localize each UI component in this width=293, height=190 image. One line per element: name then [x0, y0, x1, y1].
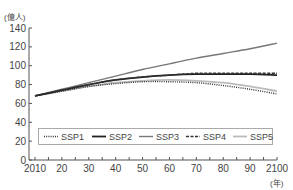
legend-label-ssp5: SSP5 [250, 132, 273, 142]
y-tick-label: 80 [15, 79, 27, 90]
x-tick-label: 2010 [24, 163, 47, 174]
series-lines [35, 43, 277, 96]
x-axis-unit-label: (年) [270, 178, 284, 188]
legend-label-ssp2: SSP2 [109, 132, 132, 142]
legend-label-ssp4: SSP4 [203, 132, 226, 142]
legend-label-ssp3: SSP3 [156, 132, 179, 142]
x-tick-label: 30 [83, 163, 95, 174]
x-tick-label: 90 [245, 163, 257, 174]
y-tick-label: 140 [9, 23, 26, 34]
x-tick-label: 2100 [266, 163, 289, 174]
y-axis-unit-label: (億人) [4, 12, 26, 22]
y-tick-label: 60 [15, 98, 27, 109]
x-tick-label: 80 [218, 163, 230, 174]
x-tick-label: 40 [110, 163, 122, 174]
x-tick-label: 20 [56, 163, 68, 174]
x-tick-label: 70 [191, 163, 203, 174]
y-tick-label: 120 [9, 41, 26, 52]
x-tick-label: 50 [137, 163, 149, 174]
population-line-chart: 0204060801001201402010203040506070809021… [0, 0, 293, 190]
y-tick-label: 100 [9, 60, 26, 71]
x-tick-label: 60 [164, 163, 176, 174]
legend: SSP1SSP2SSP3SSP4SSP5 [39, 129, 274, 145]
y-tick-label: 20 [15, 136, 27, 147]
y-tick-label: 40 [15, 117, 27, 128]
axes: 0204060801001201402010203040506070809021… [9, 23, 288, 175]
legend-label-ssp1: SSP1 [61, 132, 84, 142]
